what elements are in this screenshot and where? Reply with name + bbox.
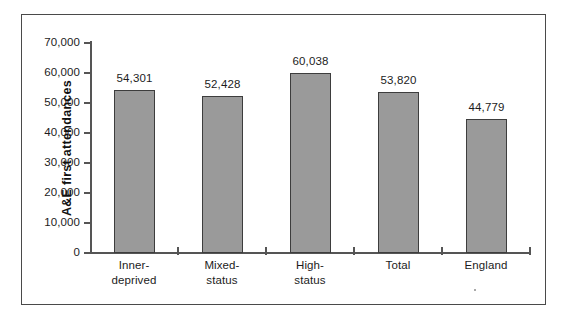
bar-value-high-status: 60,038 [270, 55, 351, 67]
y-tick-20000 [84, 192, 91, 194]
x-tick-3 [353, 247, 355, 255]
bar-high-status[interactable] [290, 73, 331, 253]
y-axis-title: A&E first attendances [60, 58, 74, 238]
bar-value-mixed-status: 52,428 [182, 78, 263, 90]
x-category-label-england: England [442, 258, 530, 273]
x-category-label-mixed-status: Mixed- status [178, 258, 266, 287]
y-tick-70000 [84, 42, 91, 44]
bar-value-total: 53,820 [358, 74, 439, 86]
chart-figure: 70,000 60,000 50,000 40,000 30,000 20,00… [0, 0, 570, 324]
bar-total[interactable] [378, 92, 419, 253]
scan-speck [474, 289, 476, 291]
x-tick-4 [441, 247, 443, 255]
bar-mixed-status[interactable] [202, 96, 243, 253]
y-tick-40000 [84, 132, 91, 134]
y-tick-10000 [84, 222, 91, 224]
y-tick-30000 [84, 162, 91, 164]
bar-inner-deprived[interactable] [114, 90, 155, 253]
bar-england[interactable] [466, 119, 507, 253]
bar-value-inner-deprived: 54,301 [94, 72, 175, 84]
x-category-label-total: Total [354, 258, 442, 273]
y-tick-50000 [84, 102, 91, 104]
x-category-label-high-status: High- status [266, 258, 354, 287]
bar-value-england: 44,779 [446, 101, 527, 113]
x-tick-1 [177, 247, 179, 255]
x-tick-2 [265, 247, 267, 255]
y-tick-0 [84, 252, 91, 254]
y-tick-60000 [84, 72, 91, 74]
x-category-label-inner-deprived: Inner- deprived [90, 258, 178, 287]
plot-area: 70,000 60,000 50,000 40,000 30,000 20,00… [0, 0, 570, 324]
y-axis-title-holder: A&E first attendances [40, 0, 54, 324]
x-tick-5 [529, 247, 531, 255]
